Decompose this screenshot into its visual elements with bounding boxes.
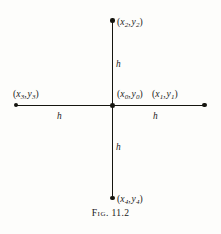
comma: , xyxy=(128,88,131,99)
figure-container: (x2, y2) (x0, y0) (x1, y1) (x3, y3) (x4,… xyxy=(0,0,221,234)
figure-caption-number: 11.2 xyxy=(112,207,130,218)
vertical-stencil-line xyxy=(112,20,114,198)
spacing-label-north: h xyxy=(116,60,121,69)
comma: , xyxy=(128,193,131,204)
spacing-label-west: h xyxy=(57,112,62,121)
node-label-west: (x3, y3) xyxy=(13,89,39,101)
close-paren: ) xyxy=(139,193,142,204)
spacing-label-east: h xyxy=(153,112,158,121)
node-dot-east xyxy=(202,103,206,107)
node-dot-south xyxy=(110,196,114,200)
close-paren: ) xyxy=(174,88,177,99)
comma: , xyxy=(128,16,131,27)
node-label-center: (x0, y0) xyxy=(117,89,143,101)
node-dot-north xyxy=(110,18,114,22)
close-paren: ) xyxy=(35,88,38,99)
close-paren: ) xyxy=(139,88,142,99)
node-dot-center xyxy=(110,103,115,108)
comma: , xyxy=(163,88,166,99)
node-dot-west xyxy=(14,103,18,107)
figure-caption-prefix: Fig. xyxy=(92,207,109,218)
node-label-east: (x1, y1) xyxy=(152,89,178,101)
figure-caption: Fig. 11.2 xyxy=(0,208,221,218)
node-label-south: (x4, y4) xyxy=(117,194,143,206)
comma: , xyxy=(24,88,27,99)
node-label-north: (x2, y2) xyxy=(117,17,143,29)
spacing-label-south: h xyxy=(116,143,121,152)
close-paren: ) xyxy=(139,16,142,27)
